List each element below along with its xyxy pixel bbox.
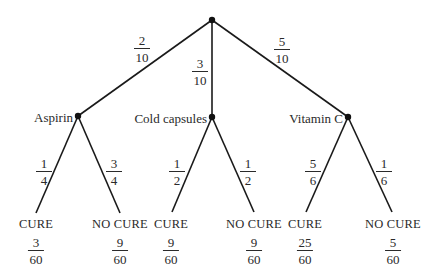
vitamin-c-node (345, 114, 351, 120)
joint-probability: 9 60 (246, 236, 262, 266)
numerator: 9 (112, 236, 128, 251)
leaf-aspirin-cure: CURE 3 60 (19, 218, 53, 266)
numerator: 1 (376, 157, 392, 172)
prob-cold-capsules: 3 10 (192, 57, 208, 87)
prob-cold-capsules-numerator: 3 (192, 57, 208, 72)
prob-cold-capsules-no-cure: 1 2 (240, 157, 256, 187)
denominator: 60 (298, 251, 311, 266)
numerator: 25 (297, 236, 313, 251)
prob-cold-capsules-denominator: 10 (194, 72, 207, 87)
outcome-label: CURE (288, 218, 322, 231)
aspirin-label: Aspirin (34, 111, 73, 124)
prob-aspirin: 2 10 (134, 34, 150, 64)
cold-capsules-node (209, 114, 215, 120)
numerator: 1 (169, 157, 185, 172)
numerator: 9 (163, 236, 179, 251)
aspirin-node (75, 113, 81, 119)
numerator: 1 (240, 157, 256, 172)
outcome-label: NO CURE (226, 218, 282, 231)
joint-probability: 9 60 (163, 236, 179, 266)
numerator: 1 (36, 157, 52, 172)
denominator: 4 (111, 172, 118, 187)
joint-probability: 25 60 (297, 236, 313, 266)
leaf-cold-capsules-no-cure: NO CURE 9 60 (226, 218, 282, 266)
denominator: 4 (41, 172, 48, 187)
leaf-cold-capsules-cure: CURE 9 60 (154, 218, 188, 266)
leaf-vitamin-c-cure: CURE 25 60 (288, 218, 322, 266)
outcome-label: NO CURE (365, 218, 421, 231)
denominator: 60 (29, 251, 42, 266)
outcome-label: CURE (154, 218, 188, 231)
prob-vitamin-c-denominator: 10 (276, 50, 289, 65)
numerator: 3 (106, 157, 122, 172)
leaf-vitamin-c-no-cure: NO CURE 5 60 (365, 218, 421, 266)
outcome-label: CURE (19, 218, 53, 231)
vitamin-c-label: Vitamin C (289, 112, 343, 125)
numerator: 9 (246, 236, 262, 251)
denominator: 2 (174, 172, 181, 187)
prob-aspirin-numerator: 2 (134, 34, 150, 49)
denominator: 60 (113, 251, 126, 266)
prob-aspirin-denominator: 10 (136, 49, 149, 64)
joint-probability: 5 60 (385, 236, 401, 266)
cold-capsules-label: Cold capsules (134, 112, 207, 125)
prob-vitamin-c: 5 10 (274, 35, 290, 65)
outcome-label: NO CURE (92, 218, 148, 231)
numerator: 3 (28, 236, 44, 251)
denominator: 60 (247, 251, 260, 266)
root-node (209, 17, 215, 23)
prob-aspirin-no-cure: 3 4 (106, 157, 122, 187)
leaf-aspirin-no-cure: NO CURE 9 60 (92, 218, 148, 266)
denominator: 60 (386, 251, 399, 266)
prob-vitamin-c-no-cure: 1 6 (376, 157, 392, 187)
prob-aspirin-cure: 1 4 (36, 157, 52, 187)
prob-vitamin-c-cure: 5 6 (305, 157, 321, 187)
joint-probability: 3 60 (28, 236, 44, 266)
numerator: 5 (385, 236, 401, 251)
denominator: 6 (381, 172, 388, 187)
numerator: 5 (305, 157, 321, 172)
joint-probability: 9 60 (112, 236, 128, 266)
denominator: 60 (164, 251, 177, 266)
denominator: 6 (310, 172, 317, 187)
denominator: 2 (245, 172, 252, 187)
prob-cold-capsules-cure: 1 2 (169, 157, 185, 187)
prob-vitamin-c-numerator: 5 (274, 35, 290, 50)
